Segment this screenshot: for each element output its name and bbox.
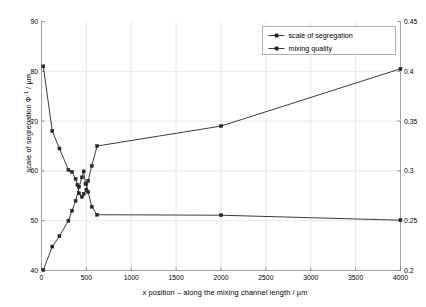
x-axis-tick-label: 2000: [213, 274, 228, 281]
x-axis-tick-label: 1000: [124, 274, 139, 281]
y-axis-right-tick-label: 0.2: [404, 267, 414, 274]
data-point-marker: [220, 214, 223, 217]
data-point-marker: [220, 125, 223, 128]
y-axis-right-tick-label: 0.4: [404, 68, 414, 75]
data-point-marker: [67, 219, 70, 222]
y-axis-right-tick-label: 0.3: [404, 167, 414, 174]
plot-canvas: 0500100015002000250030003500400040506070…: [0, 0, 426, 307]
legend-label: scale of segregation: [289, 31, 353, 40]
data-point-marker: [42, 269, 45, 272]
legend: scale of segregationmixing quality: [263, 27, 396, 55]
data-point-marker: [71, 170, 74, 173]
data-point-marker: [74, 199, 77, 202]
data-point-marker: [90, 205, 93, 208]
data-point-marker: [58, 235, 61, 238]
data-point-marker: [42, 65, 45, 68]
data-point-marker: [67, 168, 70, 171]
x-axis-tick-label: 3000: [303, 274, 318, 281]
chart-figure: 0500100015002000250030003500400040506070…: [0, 0, 426, 307]
data-point-marker: [96, 213, 99, 216]
x-axis-tick-label: 3500: [348, 274, 363, 281]
data-point-marker: [82, 170, 85, 173]
series-1: [42, 65, 402, 198]
legend-swatch-marker: [275, 34, 278, 37]
x-axis-tick-label: 2500: [258, 274, 273, 281]
y-axis-left-tick-label: 40: [30, 267, 38, 274]
grid-lines: [42, 22, 401, 271]
data-point-marker: [399, 67, 402, 70]
y-axis-right-tick-label: 0.35: [404, 118, 417, 125]
data-point-marker: [80, 195, 83, 198]
data-point-marker: [90, 164, 93, 167]
x-axis-tick-label: 500: [81, 274, 93, 281]
y-axis-left-exponent: -1: [23, 91, 29, 96]
data-point-marker: [82, 192, 85, 195]
y-axis-right-tick-label: 0.45: [404, 18, 417, 25]
data-point-marker: [399, 219, 402, 222]
x-axis-title: x position – along the mixing channel le…: [60, 288, 390, 297]
x-axis-tick-label: 4000: [393, 274, 408, 281]
data-point-marker: [96, 145, 99, 148]
data-point-marker: [87, 179, 90, 182]
y-axis-right-tick-label: 0.25: [404, 217, 417, 224]
legend-swatch-marker: [275, 47, 278, 50]
data-point-marker: [78, 185, 81, 188]
data-point-marker: [51, 245, 54, 248]
data-point-marker: [87, 190, 90, 193]
data-point-marker: [80, 176, 83, 179]
y-axis-left-tick-label: 50: [30, 217, 38, 224]
legend-label: mixing quality: [289, 44, 333, 53]
data-point-marker: [84, 182, 87, 185]
series-line: [43, 66, 400, 196]
x-axis-tick-label: 0: [40, 274, 44, 281]
data-point-marker: [74, 177, 77, 180]
y-axis-left-tick-label: 90: [30, 18, 38, 25]
x-axis-tick-label: 1500: [169, 274, 184, 281]
data-point-marker: [51, 130, 54, 133]
y-axis-left-title: scale of segregation Φ-1 / µm: [23, 43, 33, 203]
data-point-marker: [58, 147, 61, 150]
data-point-marker: [71, 209, 74, 212]
